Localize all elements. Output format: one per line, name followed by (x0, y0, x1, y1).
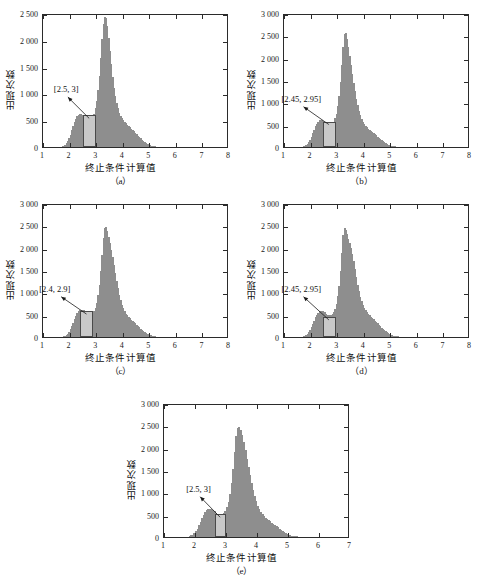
x-tick-label: 5 (285, 541, 289, 550)
x-tick-mark (417, 15, 418, 19)
y-tick-mark (43, 42, 47, 43)
x-tick-mark (195, 533, 196, 537)
x-tick-mark (364, 333, 365, 337)
y-tick-mark (43, 317, 47, 318)
x-tick-label: 7 (440, 341, 444, 350)
panel-c: 出现次数 终止条件计算值 （c） 1234567805001 0001 5002… (0, 190, 241, 380)
x-tick-mark (257, 405, 258, 409)
x-tick-label: 6 (316, 541, 320, 550)
y-tick-mark (223, 227, 227, 228)
x-tick-label: 3 (334, 151, 338, 160)
highlight-range-box (323, 317, 336, 337)
x-tick-mark (417, 333, 418, 337)
subfigure-caption-b: （b） (241, 174, 482, 187)
range-annotation-label: [2.45, 2.95] (282, 94, 322, 104)
x-tick-mark (390, 333, 391, 337)
y-tick-mark (43, 227, 47, 228)
y-tick-label: 0 (121, 534, 159, 543)
x-tick-mark (337, 205, 338, 209)
x-tick-mark (164, 533, 165, 537)
y-tick-mark (464, 60, 468, 61)
y-tick-label: 500 (241, 121, 279, 130)
x-tick-label: 8 (226, 341, 230, 350)
x-tick-mark (176, 333, 177, 337)
y-tick-mark (164, 405, 168, 406)
x-tick-label: 8 (467, 151, 471, 160)
x-tick-mark (70, 143, 71, 147)
histogram-bars-c (43, 205, 227, 337)
y-tick-label: 500 (241, 311, 279, 320)
x-tick-mark (70, 333, 71, 337)
y-tick-label: 1 500 (0, 63, 38, 72)
x-tick-mark (284, 143, 285, 147)
y-tick-mark (223, 250, 227, 251)
x-tick-label: 3 (93, 341, 97, 350)
x-tick-mark (149, 205, 150, 209)
panel-a: 出现次数 终止条件计算值 （a） 1234567805001 0001 5002… (0, 0, 241, 190)
y-tick-label: 1 500 (241, 77, 279, 86)
y-tick-label: 2 500 (241, 222, 279, 231)
y-tick-mark (223, 95, 227, 96)
y-tick-label: 0 (0, 334, 38, 343)
histogram-bars-a (43, 15, 227, 147)
x-tick-label: 5 (146, 151, 150, 160)
y-tick-mark (464, 227, 468, 228)
y-tick-mark (344, 450, 348, 451)
x-tick-mark (123, 333, 124, 337)
x-tick-label: 2 (67, 341, 71, 350)
y-tick-mark (464, 205, 468, 206)
x-tick-mark (202, 15, 203, 19)
x-tick-mark (311, 15, 312, 19)
x-tick-mark (149, 143, 150, 147)
y-tick-label: 500 (0, 117, 38, 126)
x-tick-label: 2 (308, 151, 312, 160)
y-tick-label: 3 000 (0, 200, 38, 209)
x-tick-mark (123, 15, 124, 19)
x-tick-mark (70, 205, 71, 209)
x-tick-label: 8 (467, 341, 471, 350)
y-tick-label: 1 500 (0, 267, 38, 276)
panel-b: 出现次数 终止条件计算值 （b） 1234567805001 0001 5002… (241, 0, 482, 190)
x-axis-title-c: 终止条件计算值 (0, 350, 241, 364)
y-tick-mark (464, 294, 468, 295)
y-tick-label: 2 000 (0, 36, 38, 45)
y-tick-label: 1 000 (0, 289, 38, 298)
x-tick-mark (443, 205, 444, 209)
y-tick-mark (223, 69, 227, 70)
x-tick-mark (337, 15, 338, 19)
y-tick-label: 2 000 (241, 54, 279, 63)
y-tick-label: 2 500 (0, 10, 38, 19)
x-tick-mark (176, 143, 177, 147)
y-tick-label: 1 500 (241, 267, 279, 276)
y-tick-mark (43, 250, 47, 251)
y-tick-mark (464, 15, 468, 16)
x-tick-label: 3 (93, 151, 97, 160)
x-tick-mark (443, 15, 444, 19)
x-tick-mark (311, 143, 312, 147)
y-tick-mark (164, 517, 168, 518)
y-tick-label: 3 000 (241, 10, 279, 19)
y-tick-label: 1 000 (241, 99, 279, 108)
x-tick-mark (96, 205, 97, 209)
y-tick-mark (284, 227, 288, 228)
x-tick-mark (390, 143, 391, 147)
x-tick-label: 6 (414, 151, 418, 160)
x-tick-mark (311, 333, 312, 337)
y-tick-mark (43, 205, 47, 206)
y-tick-mark (43, 272, 47, 273)
x-tick-label: 1 (281, 341, 285, 350)
highlight-range-box (215, 514, 226, 537)
y-tick-mark (43, 15, 47, 16)
y-tick-mark (464, 317, 468, 318)
x-tick-label: 1 (281, 151, 285, 160)
x-tick-label: 6 (173, 151, 177, 160)
x-tick-label: 4 (120, 341, 124, 350)
x-tick-label: 4 (120, 151, 124, 160)
x-tick-mark (123, 143, 124, 147)
x-tick-mark (417, 143, 418, 147)
x-tick-label: 5 (146, 341, 150, 350)
x-tick-mark (123, 205, 124, 209)
x-tick-mark (337, 333, 338, 337)
y-tick-label: 500 (121, 511, 159, 520)
x-tick-label: 1 (40, 341, 44, 350)
